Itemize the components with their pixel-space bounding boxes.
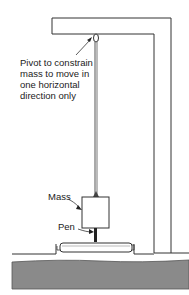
pivot-label-line-3: one horizontal [20, 79, 93, 90]
recording-drum [57, 243, 134, 252]
base-line [12, 244, 56, 254]
support-frame [52, 18, 171, 253]
mass-label: Mass [48, 191, 71, 202]
pivot-label-line-2: mass to move in [20, 68, 93, 79]
pivot-arrow [76, 40, 90, 55]
pen [94, 228, 97, 242]
mass-block [82, 197, 109, 228]
pivot-icon [94, 34, 99, 42]
ground [12, 260, 189, 289]
pivot-label-line-1: Pivot to constrain [20, 57, 93, 68]
pivot-label: Pivot to constrain mass to move in one h… [20, 57, 93, 101]
pen-label: Pen [58, 221, 75, 232]
seismometer-diagram [0, 0, 189, 295]
pivot-label-line-4: direction only [20, 90, 93, 101]
